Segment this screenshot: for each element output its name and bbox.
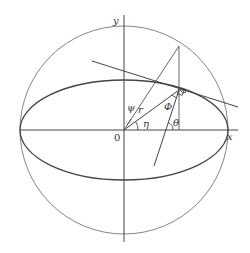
radius-to-circle-point — [124, 46, 179, 130]
psi-tick — [127, 119, 131, 125]
eta-arc — [136, 122, 139, 131]
origin-label: 0 — [114, 132, 120, 143]
psi-label: ψ — [127, 102, 135, 113]
theta-label: θ — [173, 117, 179, 128]
x-axis-label: x — [227, 131, 233, 142]
phi-arc — [172, 95, 177, 98]
phi-label: Φ — [164, 101, 172, 112]
y-axis-label: y — [112, 15, 119, 26]
eta-label: η — [143, 118, 149, 129]
r-label: r — [138, 104, 144, 115]
ellipse-diagram: y x 0 ψ r η Φ θ — [0, 0, 250, 253]
